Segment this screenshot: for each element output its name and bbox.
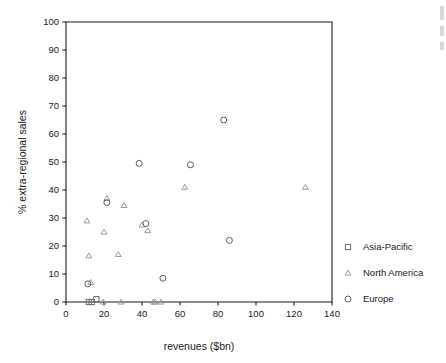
series-asia-pacific bbox=[86, 297, 99, 305]
y-tick-label: 70 bbox=[48, 100, 59, 111]
legend-marker-triangle bbox=[345, 270, 351, 275]
legend-label: Asia-Pacific bbox=[363, 241, 413, 252]
y-tick-label: 30 bbox=[48, 212, 59, 223]
data-point-triangle bbox=[115, 252, 121, 257]
legend-item-europe[interactable]: Europe bbox=[345, 293, 394, 304]
plot-frame bbox=[66, 22, 332, 302]
y-tick-label: 90 bbox=[48, 44, 59, 55]
legend-item-asia-pacific[interactable]: Asia-Pacific bbox=[345, 241, 412, 252]
y-tick-label: 80 bbox=[48, 72, 59, 83]
y-tick-label: 60 bbox=[48, 128, 59, 139]
x-tick-label: 40 bbox=[137, 308, 148, 319]
scatter-chart-figure: 0102030405060708090100020406080100120140… bbox=[0, 0, 446, 363]
legend-marker-square bbox=[345, 244, 350, 249]
y-tick-label: 40 bbox=[48, 184, 59, 195]
x-tick-label: 140 bbox=[324, 308, 340, 319]
series-europe bbox=[85, 117, 233, 287]
scan-edge-artifact-bottom bbox=[440, 42, 444, 50]
axis-ticks bbox=[63, 22, 333, 306]
y-tick-label: 0 bbox=[54, 296, 59, 307]
data-point-triangle bbox=[84, 218, 90, 223]
data-point-circle bbox=[160, 275, 166, 281]
data-point-circle bbox=[136, 160, 142, 166]
series-north-america bbox=[84, 184, 308, 304]
y-tick-label: 20 bbox=[48, 240, 59, 251]
scan-edge-artifact-middle bbox=[440, 26, 444, 36]
x-tick-label: 0 bbox=[63, 308, 68, 319]
data-point-triangle bbox=[182, 184, 188, 189]
x-tick-label: 100 bbox=[248, 308, 264, 319]
data-point-triangle bbox=[145, 228, 151, 233]
y-tick-label: 50 bbox=[48, 156, 59, 167]
legend-label: Europe bbox=[363, 293, 394, 304]
x-tick-label: 80 bbox=[213, 308, 224, 319]
data-point-circle bbox=[221, 117, 227, 123]
x-axis-title: revenues ($bn) bbox=[164, 340, 235, 352]
data-point-circle bbox=[143, 221, 149, 227]
data-point-triangle bbox=[86, 253, 92, 258]
y-axis-title: % extra-regional sales bbox=[16, 110, 28, 214]
x-tick-label: 60 bbox=[175, 308, 186, 319]
plot-axes bbox=[66, 22, 332, 302]
chart-legend: Asia-PacificNorth AmericaEurope bbox=[345, 241, 424, 304]
y-tick-label: 100 bbox=[43, 16, 59, 27]
y-tick-label: 10 bbox=[48, 268, 59, 279]
data-point-triangle bbox=[101, 229, 107, 234]
scan-edge-artifact-top bbox=[440, 6, 444, 20]
data-point-circle bbox=[187, 162, 193, 168]
x-tick-label: 20 bbox=[99, 308, 110, 319]
scatter-plot-canvas: 0102030405060708090100020406080100120140… bbox=[0, 0, 446, 363]
x-tick-label: 120 bbox=[286, 308, 302, 319]
legend-marker-circle bbox=[345, 296, 351, 302]
data-point-triangle bbox=[121, 203, 127, 208]
data-point-triangle bbox=[302, 184, 308, 189]
legend-label: North America bbox=[363, 267, 424, 278]
data-points bbox=[84, 117, 308, 305]
data-point-circle bbox=[226, 237, 232, 243]
legend-item-north-america[interactable]: North America bbox=[345, 267, 424, 278]
